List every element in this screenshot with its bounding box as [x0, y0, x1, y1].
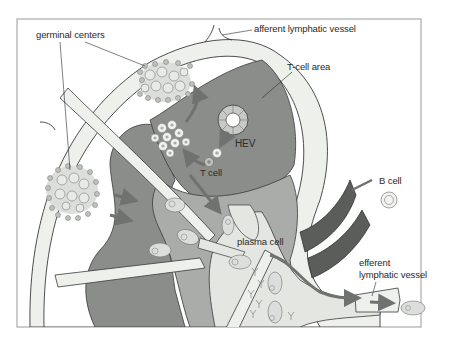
label-hev: HEV — [235, 138, 255, 150]
lymph-node-diagram: germinal centers afferent lymphatic vess… — [0, 0, 456, 346]
label-t-cell: T cell — [200, 168, 222, 179]
label-t-cell-area: T-cell area — [287, 62, 330, 73]
label-efferent: efferent — [359, 258, 390, 269]
label-lymphatic-vessel: lymphatic vessel — [359, 270, 427, 281]
diagram-canvas — [0, 0, 456, 346]
hev-vessel — [218, 105, 248, 135]
label-afferent-lymphatic-vessel: afferent lymphatic vessel — [254, 24, 356, 35]
label-b-cell: B cell — [379, 176, 402, 187]
label-germinal-centers: germinal centers — [36, 30, 105, 41]
arrow-in-efferent — [370, 302, 390, 303]
b-cell — [381, 192, 397, 208]
label-plasma-cell: plasma cell — [237, 237, 283, 248]
